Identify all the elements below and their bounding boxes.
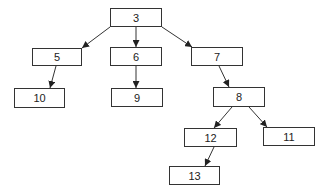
node-label: 5 <box>54 51 60 63</box>
node-9: 9 <box>111 88 163 107</box>
edge-5-to-10 <box>50 66 56 88</box>
edge-12-to-13 <box>205 147 214 166</box>
edge-8-to-12 <box>214 107 232 128</box>
node-8: 8 <box>213 87 265 107</box>
node-3: 3 <box>110 8 162 27</box>
node-label: 10 <box>33 92 45 104</box>
edge-7-to-8 <box>219 66 229 87</box>
node-6: 6 <box>110 47 162 66</box>
node-label: 8 <box>236 91 242 103</box>
node-10: 10 <box>14 88 65 108</box>
node-12: 12 <box>184 128 237 147</box>
edge-3-to-7 <box>162 27 192 47</box>
node-5: 5 <box>32 48 82 66</box>
tree-diagram: 3 5 6 7 10 9 8 12 11 13 <box>0 0 325 196</box>
node-7: 7 <box>191 47 243 66</box>
node-label: 6 <box>133 51 139 63</box>
node-label: 9 <box>134 92 140 104</box>
node-label: 12 <box>204 132 216 144</box>
node-13: 13 <box>169 166 220 185</box>
edge-8-to-11 <box>249 107 267 127</box>
node-label: 11 <box>283 131 294 143</box>
node-11: 11 <box>263 127 315 146</box>
node-label: 3 <box>133 12 139 24</box>
node-label: 13 <box>188 170 200 182</box>
edge-3-to-5 <box>82 27 110 48</box>
node-label: 7 <box>214 51 220 63</box>
